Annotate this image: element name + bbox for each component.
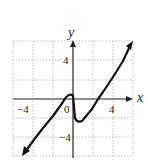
graph <box>0 0 148 165</box>
curve-arrow-upper-icon <box>126 41 133 50</box>
tick-label-neg4-y: −4 <box>59 132 71 143</box>
tick-label-neg4-x: −4 <box>17 104 29 115</box>
axes <box>13 44 130 158</box>
x-axis-arrow-icon <box>126 96 133 102</box>
tick-label-4-y: 4 <box>63 55 69 66</box>
tick-label-0: 0 <box>64 104 70 115</box>
y-axis-label: y <box>68 26 74 40</box>
x-axis-label: x <box>137 91 143 105</box>
tick-label-4-x: 4 <box>109 104 115 115</box>
